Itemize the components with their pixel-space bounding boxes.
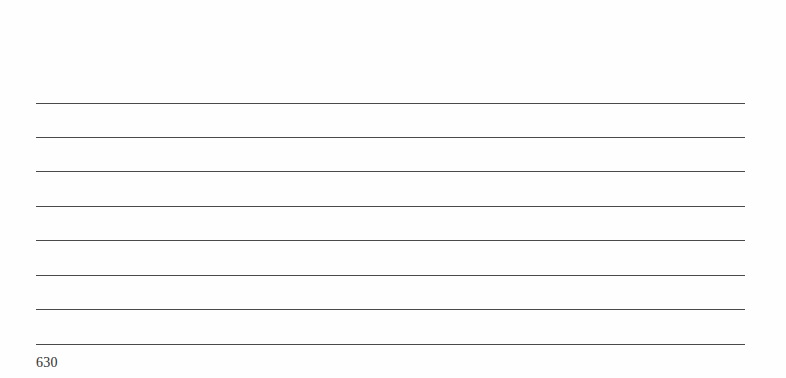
ruled-line — [36, 171, 745, 172]
ruled-line — [36, 137, 745, 138]
ruled-line — [36, 206, 745, 207]
ruled-line — [36, 275, 745, 276]
ruled-line — [36, 103, 745, 104]
ruled-line — [36, 344, 745, 345]
ruled-line — [36, 240, 745, 241]
document-page: 630 — [0, 0, 786, 378]
page-number: 630 — [36, 355, 58, 371]
ruled-line — [36, 309, 745, 310]
